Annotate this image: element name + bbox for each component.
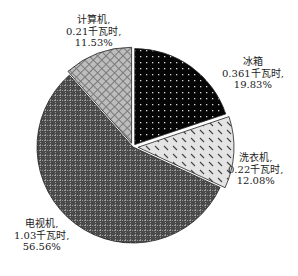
label-washing-machine: 洗衣机, 0.22千瓦时, 12.08%: [228, 152, 283, 187]
label-value: 0.361千瓦时,: [222, 68, 284, 80]
label-value: 0.22千瓦时,: [228, 164, 283, 176]
label-percent: 11.53%: [66, 37, 121, 49]
label-value: 0.21千瓦时,: [66, 26, 121, 38]
label-name: 洗衣机,: [228, 152, 283, 164]
label-refrigerator: 冰箱 0.361千瓦时, 19.83%: [222, 56, 284, 91]
label-percent: 56.56%: [14, 241, 69, 253]
label-name: 冰箱: [222, 56, 284, 68]
label-name: 电视机,: [14, 218, 69, 230]
label-tv: 电视机, 1.03千瓦时, 56.56%: [14, 218, 69, 253]
label-percent: 12.08%: [228, 175, 283, 187]
label-name: 计算机,: [66, 14, 121, 26]
label-value: 1.03千瓦时,: [14, 230, 69, 242]
label-percent: 19.83%: [222, 79, 284, 91]
label-computer: 计算机, 0.21千瓦时, 11.53%: [66, 14, 121, 49]
